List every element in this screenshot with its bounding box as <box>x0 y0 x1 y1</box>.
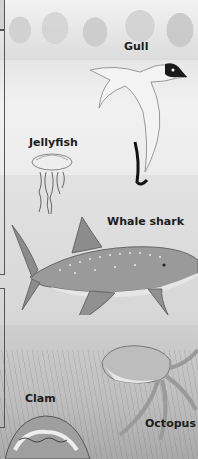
panel-frame-middle <box>0 29 5 275</box>
gull-illustration <box>85 52 195 202</box>
panel-frame-bottom <box>0 288 5 428</box>
ocean-scene: Gull Jellyfish Whale shark Octopus Clam <box>0 0 198 459</box>
clam-illustration <box>5 410 95 459</box>
octopus-label: Octopus <box>145 417 196 430</box>
panel-frame-top <box>0 0 5 31</box>
whale-shark-illustration <box>10 215 198 315</box>
gull-label: Gull <box>124 40 148 53</box>
clam-label: Clam <box>25 392 56 405</box>
jellyfish-illustration <box>30 152 75 222</box>
jellyfish-label: Jellyfish <box>29 136 78 149</box>
